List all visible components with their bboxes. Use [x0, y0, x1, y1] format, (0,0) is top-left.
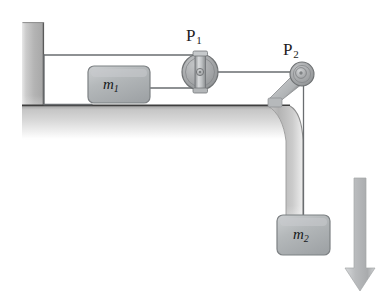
pulley-P1-label-text: P [186, 26, 196, 45]
horizontal-table-surface [22, 105, 290, 139]
pulley-P2-label: P2 [283, 40, 299, 60]
block-m2-label-sub: 2 [304, 233, 309, 244]
block-m2-label-text: m [293, 226, 304, 242]
block-m2-label: m2 [293, 226, 309, 244]
pulley-P2-label-sub: 2 [293, 48, 299, 60]
pulley-P1[interactable] [182, 51, 218, 93]
block-m1-label: m1 [103, 76, 119, 94]
pulley-P1-label-sub: 1 [196, 34, 202, 46]
block-m1[interactable] [88, 66, 150, 103]
pulley-P2[interactable] [290, 62, 314, 86]
block-m1-label-sub: 1 [114, 83, 119, 94]
pulley-P2-label-text: P [283, 40, 293, 59]
block-m1-label-text: m [103, 76, 114, 92]
diagram-canvas: P1 P2 m1 m2 [0, 0, 387, 301]
pulley-P1-label: P1 [186, 26, 202, 46]
downward-force-arrow [345, 178, 375, 291]
